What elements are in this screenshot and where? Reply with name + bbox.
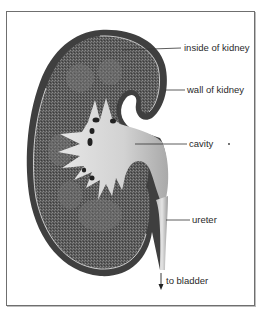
label-wall-of-kidney: wall of kidney bbox=[187, 85, 244, 95]
arrow-down-icon bbox=[159, 273, 164, 290]
stray-dot bbox=[228, 143, 230, 145]
label-cavity: cavity bbox=[189, 139, 213, 149]
label-to-bladder: to bladder bbox=[166, 276, 208, 286]
label-inside-of-kidney: inside of kidney bbox=[184, 43, 249, 53]
label-ureter: ureter bbox=[192, 215, 217, 225]
